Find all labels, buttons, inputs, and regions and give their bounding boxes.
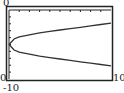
curve-upper-branch xyxy=(9,23,111,44)
window-frame xyxy=(7,7,113,81)
curve-lower-branch xyxy=(9,45,111,66)
axes xyxy=(9,10,111,79)
graph-window xyxy=(0,0,124,93)
ymax-label: 0 xyxy=(3,0,9,8)
xmax-label: 10 xyxy=(113,73,124,83)
ymin-label: -10 xyxy=(3,83,19,93)
